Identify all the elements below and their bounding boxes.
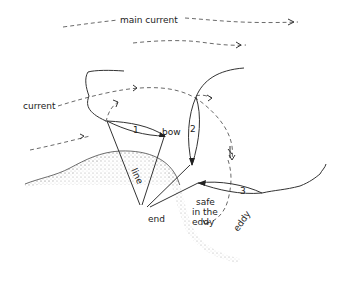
arrow-icon (80, 134, 84, 139)
ropes (86, 68, 244, 121)
safe-label-line2: in the (192, 207, 218, 217)
arrow-icon (207, 95, 212, 101)
current-label: current (23, 101, 56, 111)
main-current-label: main current (120, 15, 178, 25)
boat-number: 2 (190, 124, 196, 134)
boat-1: 1 (107, 121, 166, 137)
lining-diagram: main current current line end 1 bow (0, 0, 338, 284)
safe-label-line3: eddy (192, 217, 215, 227)
boat-number: 3 (240, 186, 246, 196)
rope-to-shore (262, 164, 326, 193)
diagram-canvas: main current current line end 1 bow (0, 0, 338, 284)
current-flow (30, 85, 235, 160)
boat-2: 2 (189, 97, 200, 166)
bow-label: bow (162, 127, 181, 137)
boat-number: 1 (133, 125, 139, 135)
end-label: end (148, 214, 165, 224)
main-current-flow (63, 18, 298, 48)
tick-mark (228, 146, 232, 158)
safe-label-line1: safe (196, 197, 215, 207)
